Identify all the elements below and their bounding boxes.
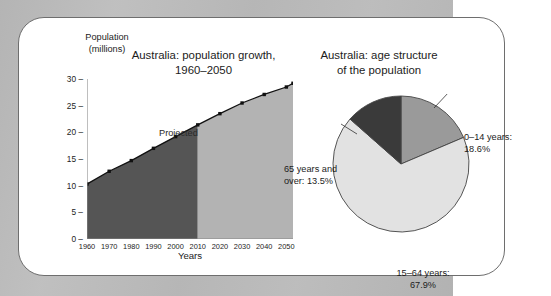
pie-label-15-64-line1: 15–64 years: <box>377 268 469 280</box>
y-tick-15: 15 – <box>67 154 83 164</box>
area-plot-svg <box>87 79 293 239</box>
leader-line-0-14 <box>434 94 449 108</box>
age-structure-chart: Australia: age structure of the populati… <box>299 32 499 268</box>
figure-card: Population (millions) Australia: populat… <box>18 17 505 276</box>
pie-label-15-64-line2: 67.9% <box>377 280 469 292</box>
pie-chart-title-line1: Australia: age structure <box>299 48 459 63</box>
pie-label-0-14-line1: 0–14 years: <box>464 132 512 144</box>
line-chart-title: Australia: population growth, 1960–2050 <box>101 48 306 77</box>
pie-svg <box>331 94 471 234</box>
pie-label-65-over-line1: 65 years and <box>284 164 337 176</box>
y-tick-20: 20 – <box>67 127 83 137</box>
pie-label-15-64: 15–64 years: 67.9% <box>377 268 469 291</box>
pie-graphic: 0–14 years: 18.6% 65 years and over: 13.… <box>331 94 471 234</box>
population-growth-chart: Population (millions) Australia: populat… <box>39 32 309 264</box>
y-tick-30: 30 – <box>67 74 83 84</box>
pie-label-65-over: 65 years and over: 13.5% <box>284 164 337 187</box>
y-tick-25: 25 – <box>67 101 83 111</box>
pie-label-0-14-line2: 18.6% <box>464 144 512 156</box>
line-chart-plot-area: 0 –5 –10 –15 –20 –25 –30 – 1960197019801… <box>87 79 293 239</box>
projected-label: Projected <box>159 128 198 138</box>
line-chart-title-line2: 1960–2050 <box>101 63 306 78</box>
figure-page: Population (millions) Australia: populat… <box>0 0 551 296</box>
y-tick-5: 5 – <box>71 207 83 217</box>
pie-chart-title: Australia: age structure of the populati… <box>299 48 459 77</box>
y-tick-10: 10 – <box>67 181 83 191</box>
x-axis-title: Years <box>87 250 293 261</box>
pie-label-65-over-line2: over: 13.5% <box>284 176 337 188</box>
pie-label-0-14: 0–14 years: 18.6% <box>464 132 512 155</box>
pie-chart-title-line2: of the population <box>299 63 459 78</box>
y-axis-label-line1: Population <box>61 32 153 44</box>
line-chart-title-line1: Australia: population growth, <box>101 48 306 63</box>
